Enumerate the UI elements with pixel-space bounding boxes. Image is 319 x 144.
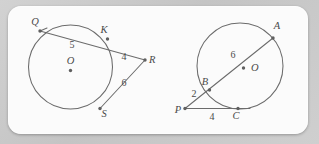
- left-center-label-O: O: [67, 55, 75, 66]
- right-circle: [197, 23, 283, 109]
- point-label-R: R: [148, 54, 156, 65]
- screenshot-stage: Q K R S O 5 4 6 A B P: [0, 0, 319, 144]
- segment-PA: [185, 38, 273, 109]
- point-label-B: B: [202, 76, 209, 87]
- point-K-dot: [106, 37, 109, 40]
- measure-label-BA: 6: [231, 49, 236, 60]
- point-label-K: K: [99, 24, 108, 35]
- point-R-dot: [143, 58, 146, 61]
- point-label-C: C: [232, 110, 240, 121]
- measure-label-SR: 6: [122, 77, 127, 88]
- measure-label-QK: 5: [70, 39, 75, 50]
- left-diagram: Q K R S O 5 4 6: [29, 16, 157, 119]
- segment-QR: [40, 31, 145, 60]
- right-center-dot: [242, 66, 245, 69]
- point-label-S: S: [101, 108, 107, 119]
- point-label-P: P: [174, 104, 182, 115]
- left-circle: [29, 25, 113, 109]
- point-label-A: A: [273, 20, 281, 31]
- point-A-dot: [271, 36, 274, 39]
- measure-label-PB: 2: [192, 88, 197, 99]
- measure-label-PC: 4: [210, 111, 215, 122]
- left-center-dot: [69, 69, 72, 72]
- point-Q-dot: [38, 29, 41, 32]
- geometry-figure: Q K R S O 5 4 6 A B P: [0, 0, 319, 144]
- point-B-dot: [208, 88, 211, 91]
- point-P-dot: [183, 107, 186, 110]
- measure-label-KR: 4: [122, 51, 127, 62]
- right-center-label-O: O: [251, 62, 259, 73]
- right-diagram: A B P C O 6 2 4: [174, 20, 283, 122]
- point-label-Q: Q: [31, 16, 39, 27]
